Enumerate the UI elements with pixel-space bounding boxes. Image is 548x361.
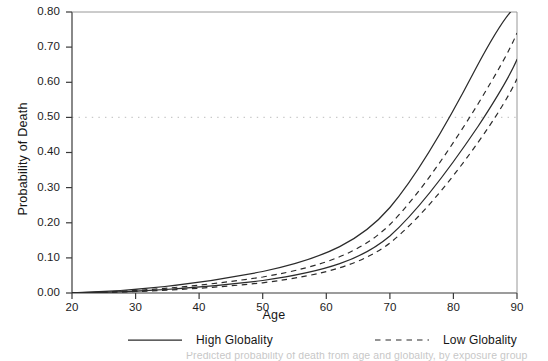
legend-label-low-globality: Low Globality bbox=[443, 333, 517, 347]
ytick-label-0: 0.80 bbox=[18, 5, 60, 17]
series-line-high-globality-lower bbox=[72, 60, 517, 294]
x-axis-title: Age bbox=[0, 308, 548, 322]
y-axis-title: Probability of Death bbox=[16, 74, 30, 244]
ytick-label-1: 0.70 bbox=[18, 40, 60, 52]
series-line-high-globality-upper bbox=[72, 12, 511, 293]
series-line-low-globality-lower bbox=[72, 79, 517, 293]
cropped-caption-text: Predicted probability of death from age … bbox=[186, 352, 527, 361]
chart-figure: 0.80 0.70 0.60 0.50 0.40 0.30 0.20 0.10 … bbox=[0, 0, 548, 361]
ytick-label-8: 0.00 bbox=[18, 286, 60, 298]
legend-item-high-globality: High Globality bbox=[128, 331, 273, 349]
legend-swatch-solid-icon bbox=[128, 335, 182, 345]
legend-item-low-globality: Low Globality bbox=[375, 331, 517, 349]
series-line-low-globality-upper bbox=[72, 33, 517, 293]
ytick-label-7: 0.10 bbox=[18, 251, 60, 263]
legend-swatch-dashed-icon bbox=[375, 335, 429, 345]
chart-legend: High Globality Low Globality bbox=[0, 331, 548, 351]
x-tick-marks bbox=[72, 293, 517, 299]
legend-label-high-globality: High Globality bbox=[196, 333, 273, 347]
cropped-caption-strip: Predicted probability of death from age … bbox=[0, 352, 548, 361]
y-tick-marks bbox=[66, 12, 72, 293]
